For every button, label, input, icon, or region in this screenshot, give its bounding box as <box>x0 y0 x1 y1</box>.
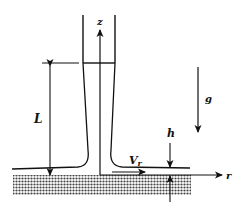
radial-velocity-label: Vr <box>129 154 143 168</box>
r-axis-label: r <box>226 170 232 181</box>
gravity-label: g <box>205 93 212 104</box>
z-axis-label: z <box>96 16 103 27</box>
plate-surface <box>13 175 191 195</box>
jet-impingement-diagram: z r L Vr h g <box>0 0 239 211</box>
film-thickness-label: h <box>167 127 175 140</box>
length-label: L <box>33 112 42 126</box>
